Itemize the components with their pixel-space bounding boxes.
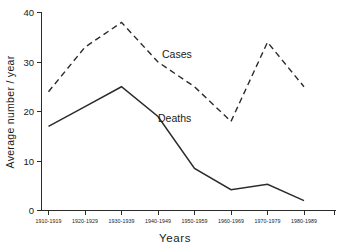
y-tick-label-40: 40 (23, 7, 34, 18)
y-tick-label-10: 10 (23, 156, 34, 167)
x-axis-tick-labels: 1910-1919 1920-1929 1930-1939 1940-1949 … (35, 218, 317, 224)
chart-container: Average number / year 40 30 20 10 0 (0, 0, 341, 249)
series-annotation-deaths: Deaths (158, 112, 191, 124)
x-axis-ticks (49, 211, 335, 216)
y-tick-label-20: 20 (23, 106, 34, 117)
x-tick-label-7: 1980-1989 (291, 218, 317, 224)
x-tick-label-6: 1970-1979 (254, 218, 280, 224)
x-axis-title: Years (159, 232, 191, 244)
x-tick-label-5: 1960-1969 (218, 218, 244, 224)
series-line-deaths (49, 87, 305, 201)
y-axis-tick-labels: 40 30 20 10 0 (23, 7, 34, 216)
series-annotation-cases: Cases (162, 48, 192, 60)
line-chart: Average number / year 40 30 20 10 0 (0, 0, 341, 249)
x-tick-label-1: 1920-1929 (72, 218, 98, 224)
series-line-cases (49, 22, 305, 121)
y-tick-label-0: 0 (29, 205, 34, 216)
y-axis-title: Average number / year (4, 55, 16, 168)
y-axis-ticks (37, 13, 42, 211)
x-tick-label-4: 1950-1959 (181, 218, 207, 224)
y-tick-label-30: 30 (23, 57, 34, 68)
x-tick-label-3: 1940-1949 (145, 218, 171, 224)
x-tick-label-2: 1930-1939 (108, 218, 134, 224)
x-tick-label-0: 1910-1919 (35, 218, 61, 224)
